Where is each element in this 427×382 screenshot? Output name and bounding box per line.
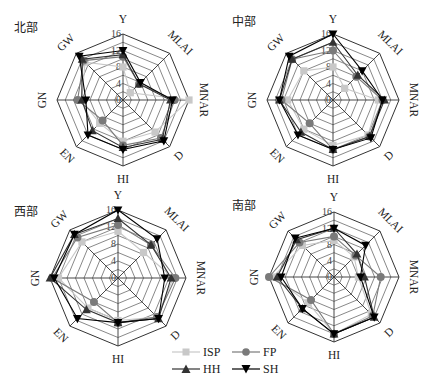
legend-item-fp: FP xyxy=(232,344,276,360)
axis-label-mnar: MNAR xyxy=(198,83,210,118)
radar-panel-3: 西部YMLAIMNARDHIENGNGW0481216 xyxy=(14,189,207,365)
chart-legend: ISP FP HH SH xyxy=(172,344,292,380)
tick-label: 4 xyxy=(116,78,121,89)
tick-label: 8 xyxy=(111,238,116,249)
axis-label-hi: HI xyxy=(327,173,339,185)
axis-label-en: EN xyxy=(51,325,71,345)
axis-label-gw: GW xyxy=(266,209,288,231)
axis-label-mnar: MNAR xyxy=(195,261,207,296)
axis-label-y: Y xyxy=(119,13,128,25)
square-marker-icon xyxy=(172,346,200,358)
axis-label-gw: GW xyxy=(48,208,70,230)
circle-marker-icon xyxy=(232,346,260,358)
axis-label-mnar: MNAR xyxy=(408,260,420,295)
axis-label-d: D xyxy=(168,328,182,342)
radar-panel-2: 中部YMLAIMNARDHIENGNGW0481216 xyxy=(232,13,420,185)
tick-label: 4 xyxy=(326,78,331,89)
axis-label-hi: HI xyxy=(112,353,124,365)
axis-label-y: Y xyxy=(329,13,338,25)
axis-label-hi: HI xyxy=(117,173,129,185)
tick-label: 0 xyxy=(111,272,116,283)
axis-label-y: Y xyxy=(114,189,123,201)
legend-label-hh: HH xyxy=(203,362,220,377)
tick-label: 0 xyxy=(116,94,121,105)
legend-label-fp: FP xyxy=(263,345,276,360)
tick-label: 16 xyxy=(111,28,121,39)
tick-label: 12 xyxy=(111,45,121,56)
axis-label-mnar: MNAR xyxy=(408,83,420,118)
radar-chart-canvas: 北部YMLAIMNARDHIENGNGW0481216中部YMLAIMNARDH… xyxy=(0,0,427,382)
tick-label: 4 xyxy=(327,255,332,266)
radar-chart-figure: 北部YMLAIMNARDHIENGNGW0481216中部YMLAIMNARDH… xyxy=(0,0,427,382)
axis-label-mlai: MLAI xyxy=(162,204,191,233)
tick-label: 16 xyxy=(322,206,332,217)
axis-label-d: D xyxy=(171,148,185,162)
axis-label-en: EN xyxy=(268,146,288,166)
axis-label-gn: GN xyxy=(246,91,258,108)
legend-item-hh: HH xyxy=(172,361,220,377)
axis-label-mlai: MLAI xyxy=(166,28,195,57)
legend-label-isp: ISP xyxy=(203,345,220,360)
axis-label-en: EN xyxy=(269,322,289,342)
tick-label: 4 xyxy=(111,255,116,266)
panel-title: 北部 xyxy=(14,20,38,35)
radar-panel-4: 南部YMLAIMNARDHIENGNGW0481216 xyxy=(232,191,420,361)
legend-label-sh: SH xyxy=(263,362,278,377)
axis-label-gn: GN xyxy=(248,268,260,285)
axis-label-en: EN xyxy=(58,146,78,166)
triangle-down-marker-icon xyxy=(232,363,260,375)
axis-label-d: D xyxy=(381,148,395,162)
tick-label: 0 xyxy=(326,94,331,105)
panel-title: 南部 xyxy=(232,198,256,213)
radar-panel-1: 北部YMLAIMNARDHIENGNGW0481216 xyxy=(14,13,210,185)
axis-label-y: Y xyxy=(330,191,339,203)
axis-label-d: D xyxy=(382,325,396,339)
axis-label-mlai: MLAI xyxy=(376,28,405,57)
triangle-up-marker-icon xyxy=(172,363,200,375)
axis-label-gw: GW xyxy=(54,31,76,53)
tick-label: 0 xyxy=(327,271,332,282)
axis-label-mlai: MLAI xyxy=(376,206,405,235)
axis-label-gw: GW xyxy=(264,31,286,53)
legend-item-sh: SH xyxy=(232,361,278,377)
legend-item-isp: ISP xyxy=(172,344,220,360)
panel-title: 中部 xyxy=(232,14,256,29)
axis-label-gn: GN xyxy=(36,91,48,108)
axis-label-gn: GN xyxy=(29,269,41,286)
axis-label-hi: HI xyxy=(328,349,340,361)
panel-title: 西部 xyxy=(14,204,38,219)
